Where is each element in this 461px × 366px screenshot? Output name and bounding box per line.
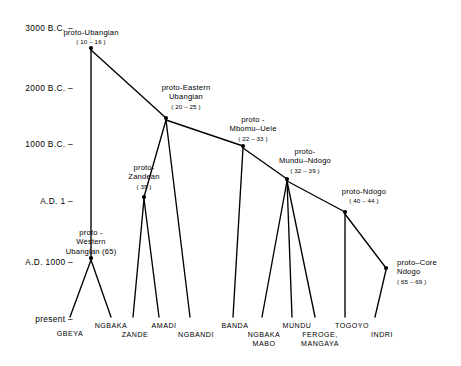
axis-tick-1: 2000 B.C. – bbox=[25, 83, 73, 93]
node-count: ( 32 – 39 ) bbox=[279, 166, 331, 175]
node-label-mundundogo: proto-Mundu–Ndogo( 32 – 39 ) bbox=[279, 147, 331, 175]
tree-branch bbox=[70, 260, 91, 317]
leaf-label: AMADI bbox=[152, 322, 177, 331]
node-count: ( 65 – 69 ) bbox=[397, 277, 437, 286]
leaf-name-line: INDRI bbox=[371, 331, 393, 340]
tree-edges-layer bbox=[0, 0, 461, 366]
node-label-zandean: proto-Zandean( 39 ) bbox=[128, 163, 159, 191]
tree-node-dot bbox=[241, 144, 245, 148]
node-name-line: Western bbox=[66, 237, 117, 246]
tree-branch bbox=[166, 120, 190, 317]
leaf-label: GBEYA bbox=[57, 330, 83, 339]
node-name-line: Mundu–Ndogo bbox=[279, 156, 331, 165]
tree-node-dot bbox=[89, 256, 93, 260]
node-name-line: proto- bbox=[128, 163, 159, 172]
node-count: ( 22 – 33 ) bbox=[229, 134, 276, 143]
leaf-label: NGBAKAMABO bbox=[248, 331, 281, 348]
leaf-name-line: NGBAKA bbox=[248, 331, 281, 340]
leaf-label: NGBANDI bbox=[178, 331, 214, 340]
leaf-name-line: TOGOYO bbox=[335, 322, 369, 331]
family-tree-diagram: 3000 B.C. –2000 B.C. –1000 B.C. –A.D. 1 … bbox=[0, 0, 461, 366]
node-name-line: Ubangian bbox=[162, 92, 211, 101]
leaf-name-line: BANDA bbox=[222, 322, 249, 331]
tree-node-dot bbox=[343, 210, 347, 214]
tree-node-dot bbox=[285, 177, 289, 181]
node-label-ubangian: proto-Ubangian( 10 – 16 ) bbox=[63, 28, 118, 47]
node-count: ( 10 – 16 ) bbox=[63, 37, 118, 46]
node-name-line: proto - bbox=[66, 228, 117, 237]
node-count: ( 40 – 44 ) bbox=[342, 196, 386, 205]
tree-branch bbox=[133, 199, 144, 317]
leaf-label: INDRI bbox=[371, 331, 393, 340]
leaf-name-line: NGBANDI bbox=[178, 331, 214, 340]
tree-branch bbox=[375, 270, 386, 317]
leaf-label: MUNDU bbox=[283, 322, 312, 331]
node-name-line: Zandean bbox=[128, 172, 159, 181]
leaf-label: NGBAKA bbox=[95, 322, 128, 331]
tree-branch bbox=[287, 181, 345, 212]
leaf-name-line: MANGAYA bbox=[301, 340, 339, 349]
leaf-name-line: MABO bbox=[248, 340, 281, 349]
tree-node-dot bbox=[164, 116, 168, 120]
leaf-name-line: ZANDE bbox=[122, 331, 149, 340]
axis-tick-4: A.D. 1000 – bbox=[25, 257, 73, 267]
axis-tick-2: 1000 B.C. – bbox=[25, 139, 73, 149]
tree-branch bbox=[233, 148, 243, 317]
leaf-name-line: MUNDU bbox=[283, 322, 312, 331]
node-name-line: Ubangian (65) bbox=[66, 247, 117, 256]
leaf-label: ZANDE bbox=[122, 331, 149, 340]
tree-node-dot bbox=[142, 195, 146, 199]
node-name-line: proto-Eastern bbox=[162, 83, 211, 92]
node-name-line: proto-Ubangian bbox=[63, 28, 118, 37]
leaf-label: TOGOYO bbox=[335, 322, 369, 331]
leaf-name-line: AMADI bbox=[152, 322, 177, 331]
leaf-name-line: NGBAKA bbox=[95, 322, 128, 331]
leaf-label: FEROGE,MANGAYA bbox=[301, 331, 339, 348]
leaf-label: BANDA bbox=[222, 322, 249, 331]
node-name-line: proto- bbox=[279, 147, 331, 156]
leaf-name-line: FEROGE, bbox=[301, 331, 339, 340]
axis-tick-5: present – bbox=[35, 314, 73, 324]
node-name-line: proto-Ndogo bbox=[342, 187, 386, 196]
node-count: ( 20 – 25 ) bbox=[162, 102, 211, 111]
node-label-ndogo: proto-Ndogo( 40 – 44 ) bbox=[342, 187, 386, 206]
node-label-western: proto -WesternUbangian (65) bbox=[66, 228, 117, 256]
tree-branch bbox=[345, 214, 386, 268]
tree-branch bbox=[262, 181, 287, 317]
node-label-corendogo: proto–CoreNdogo( 65 – 69 ) bbox=[397, 258, 437, 286]
tree-branch bbox=[144, 199, 159, 317]
node-name-line: Mbomu–Uele bbox=[229, 124, 276, 133]
node-label-eastern: proto-EasternUbangian( 20 – 25 ) bbox=[162, 83, 211, 111]
axis-tick-3: A.D. 1 – bbox=[40, 196, 73, 206]
node-count: ( 39 ) bbox=[128, 182, 159, 191]
node-name-line: proto–Core bbox=[397, 258, 437, 267]
node-name-line: proto - bbox=[229, 115, 276, 124]
node-name-line: Ndogo bbox=[397, 267, 437, 276]
tree-branch bbox=[91, 50, 166, 118]
node-label-mbomu: proto -Mbomu–Uele( 22 – 33 ) bbox=[229, 115, 276, 143]
leaf-name-line: GBEYA bbox=[57, 330, 83, 339]
tree-branch bbox=[91, 260, 111, 317]
tree-node-dot bbox=[384, 266, 388, 270]
